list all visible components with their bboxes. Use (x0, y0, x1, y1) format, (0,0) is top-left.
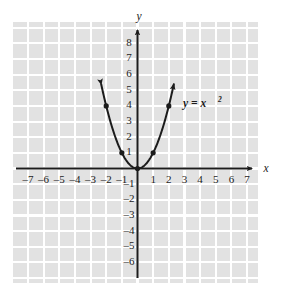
y-tick-label: –2 (123, 192, 135, 204)
x-tick-label: –2 (100, 173, 112, 185)
data-point (135, 166, 140, 171)
equation-exponent: 2 (217, 95, 222, 104)
y-tick-label: –5 (123, 239, 136, 251)
x-tick-label: –4 (68, 173, 81, 185)
x-tick-label: 4 (197, 173, 203, 185)
x-tick-label: 6 (229, 173, 235, 185)
y-tick-label: 8 (126, 36, 132, 48)
y-tick-label: 5 (126, 83, 132, 95)
x-tick-label: –3 (84, 173, 97, 185)
y-tick-label: –6 (123, 255, 136, 267)
y-tick-label: 4 (126, 98, 132, 110)
y-tick-label: 6 (126, 67, 132, 79)
y-tick-label: 3 (126, 114, 132, 126)
x-tick-label: 1 (150, 173, 156, 185)
data-point (119, 150, 124, 155)
graph-figure: –7–6–5–4–3–2–11234567 87654321–1–2–3–4–5… (0, 0, 282, 297)
x-axis-label: x (262, 162, 269, 174)
data-point (151, 150, 156, 155)
y-tick-label: –1 (123, 177, 135, 189)
y-axis-label: y (135, 10, 142, 23)
x-tick-label: 2 (166, 173, 172, 185)
y-tick-label: –3 (123, 208, 136, 220)
x-tick-label: 3 (182, 173, 188, 185)
x-tick-label: –7 (21, 173, 34, 185)
data-point (104, 103, 109, 108)
coordinate-plane-chart: –7–6–5–4–3–2–11234567 87654321–1–2–3–4–5… (0, 0, 282, 297)
y-tick-label: 7 (126, 51, 132, 63)
x-tick-label: 7 (244, 173, 250, 185)
y-tick-label: 1 (126, 145, 132, 157)
y-tick-label: 2 (126, 130, 132, 142)
equation-text: y = x (181, 97, 206, 110)
x-tick-label: –6 (37, 173, 50, 185)
x-tick-label: 5 (213, 173, 219, 185)
y-tick-label: –4 (123, 224, 136, 236)
x-tick-label: –5 (53, 173, 66, 185)
data-point (166, 103, 171, 108)
